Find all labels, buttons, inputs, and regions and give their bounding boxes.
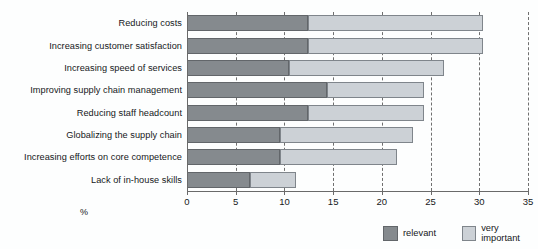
bar-segment-relevant bbox=[187, 15, 308, 31]
bar-segment-very-important bbox=[308, 38, 483, 54]
bar-segment-relevant bbox=[187, 149, 280, 165]
x-tick-0 bbox=[187, 191, 188, 195]
bar-segment-relevant bbox=[187, 105, 308, 121]
category-label: Increasing speed of services bbox=[0, 63, 182, 73]
x-axis-line bbox=[187, 191, 528, 192]
legend-item-relevant: relevant bbox=[383, 226, 436, 241]
bar-segment-relevant bbox=[187, 60, 289, 76]
x-tick-label-35: 35 bbox=[515, 196, 538, 207]
bar-segment-relevant bbox=[187, 127, 280, 143]
bar-row bbox=[187, 149, 528, 165]
bar-segment-very-important bbox=[327, 82, 423, 98]
bar-segment-relevant bbox=[187, 38, 308, 54]
bar-row bbox=[187, 127, 528, 143]
legend-item-very-important: very important bbox=[462, 223, 538, 243]
x-tick-label-30: 30 bbox=[466, 196, 492, 207]
x-tick-20 bbox=[382, 191, 383, 195]
bar-row bbox=[187, 38, 528, 54]
bar-segment-relevant bbox=[187, 82, 327, 98]
legend-label-relevant: relevant bbox=[403, 228, 436, 238]
gridline-35 bbox=[528, 12, 529, 191]
legend-label-very-important: very important bbox=[481, 223, 538, 243]
bar-segment-very-important bbox=[280, 149, 398, 165]
x-tick-25 bbox=[431, 191, 432, 195]
bar-segment-very-important bbox=[308, 105, 424, 121]
bar-segment-very-important bbox=[280, 127, 413, 143]
category-label: Reducing costs bbox=[0, 18, 182, 28]
category-label: Lack of in-house skills bbox=[0, 175, 182, 185]
x-tick-35 bbox=[528, 191, 529, 195]
category-label: Improving supply chain management bbox=[0, 85, 182, 95]
chart-legend: relevant very important bbox=[383, 224, 538, 242]
bar-row bbox=[187, 82, 528, 98]
x-tick-label-5: 5 bbox=[223, 196, 249, 207]
x-tick-15 bbox=[333, 191, 334, 195]
category-axis-labels: Reducing costsIncreasing customer satisf… bbox=[0, 12, 182, 191]
stacked-bar-chart: Reducing costsIncreasing customer satisf… bbox=[0, 0, 538, 249]
category-label: Increasing customer satisfaction bbox=[0, 41, 182, 51]
x-tick-label-20: 20 bbox=[369, 196, 395, 207]
x-tick-label-15: 15 bbox=[320, 196, 346, 207]
x-tick-label-25: 25 bbox=[418, 196, 444, 207]
plot-area bbox=[187, 12, 528, 191]
legend-swatch-very-important-icon bbox=[462, 226, 477, 241]
y-axis-line bbox=[187, 12, 188, 192]
x-axis-title-text: % bbox=[80, 207, 88, 217]
bar-segment-very-important bbox=[250, 172, 296, 188]
bar-row bbox=[187, 15, 528, 31]
x-tick-label-0: 0 bbox=[174, 196, 200, 207]
category-label: Globalizing the supply chain bbox=[0, 130, 182, 140]
bar-segment-relevant bbox=[187, 172, 250, 188]
x-tick-10 bbox=[284, 191, 285, 195]
x-tick-label-10: 10 bbox=[271, 196, 297, 207]
x-tick-30 bbox=[479, 191, 480, 195]
bar-row bbox=[187, 60, 528, 76]
legend-swatch-relevant-icon bbox=[383, 226, 398, 241]
category-label: Reducing staff headcount bbox=[0, 108, 182, 118]
bar-row bbox=[187, 172, 528, 188]
category-label: Increasing efforts on core competence bbox=[0, 152, 182, 162]
bar-segment-very-important bbox=[289, 60, 444, 76]
x-tick-5 bbox=[236, 191, 237, 195]
bar-row bbox=[187, 105, 528, 121]
bar-segment-very-important bbox=[308, 15, 483, 31]
x-axis-title: % bbox=[0, 207, 538, 217]
